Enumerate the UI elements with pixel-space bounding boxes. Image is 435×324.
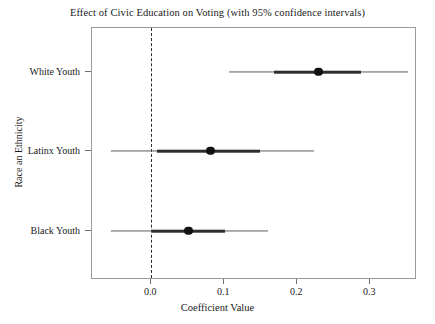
interval-row [92,63,415,81]
y-tick-label: Black Youth [31,225,80,236]
interval-row [92,142,415,160]
chart-title: Effect of Civic Education on Voting (wit… [0,7,435,18]
x-axis-label: Coefficient Value [0,302,435,313]
point-estimate-marker [184,227,192,235]
interval-row [92,222,415,240]
y-axis-label: Race an Ethnicity [13,116,24,187]
point-estimate-marker [206,147,214,155]
y-tick-label: White Youth [29,66,80,77]
coefficient-plot: Effect of Civic Education on Voting (wit… [0,0,435,324]
x-tick-mark [296,279,297,284]
x-tick-label: 0.3 [363,286,376,297]
x-tick-mark [369,279,370,284]
y-tick-label: Latinx Youth [28,145,80,156]
y-tick-mark [85,230,91,231]
y-tick-mark [85,150,91,151]
y-tick-mark [85,71,91,72]
x-tick-label: 0.2 [290,286,303,297]
x-tick-mark [223,279,224,284]
plot-inner [92,28,415,278]
plot-area [91,27,416,279]
x-tick-mark [150,279,151,284]
point-estimate-marker [314,68,322,76]
x-tick-label: 0.1 [217,286,230,297]
x-tick-label: 0.0 [144,286,157,297]
